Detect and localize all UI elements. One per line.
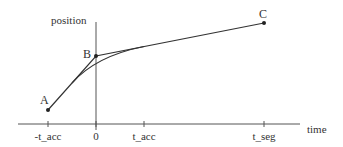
tick-label-tseg: t_seg bbox=[252, 130, 276, 142]
point-label-C: C bbox=[259, 7, 267, 21]
point-B bbox=[94, 54, 98, 58]
point-C bbox=[262, 21, 266, 25]
tick-label-tacc: t_acc bbox=[132, 130, 155, 142]
point-A bbox=[46, 108, 50, 112]
linear-path-A-B-C bbox=[48, 23, 264, 110]
point-label-A: A bbox=[40, 93, 49, 107]
y-axis-label: position bbox=[51, 14, 87, 26]
trajectory-diagram: A B C position time -t_acc 0 t_acc t_seg bbox=[0, 0, 343, 147]
point-label-B: B bbox=[83, 47, 91, 61]
tick-label-zero: 0 bbox=[93, 130, 99, 142]
tick-label-neg-tacc: -t_acc bbox=[35, 130, 62, 142]
x-axis-label: time bbox=[307, 123, 327, 135]
